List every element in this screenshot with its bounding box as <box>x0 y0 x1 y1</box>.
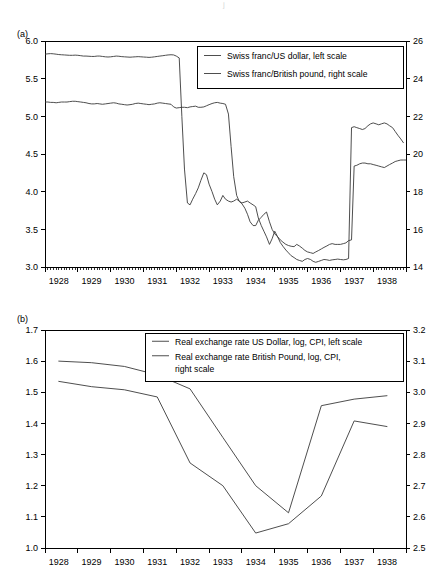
x-axis-tick-label: 1932 <box>180 276 200 286</box>
x-axis-tick-label: 1934 <box>246 276 266 286</box>
x-axis-tick-label: 1937 <box>344 557 364 567</box>
right-axis-tick-label: 14 <box>413 262 423 272</box>
x-axis-tick-label: 1933 <box>213 276 233 286</box>
left-axis-tick-label: 3.5 <box>25 225 38 235</box>
left-axis-tick-label: 1.7 <box>25 325 38 335</box>
x-axis-tick-label: 1931 <box>147 276 167 286</box>
left-axis-tick-label: 3.0 <box>25 262 38 272</box>
figure-container: j (a) 3.03.54.04.55.05.56.01416182022242… <box>0 0 448 585</box>
left-axis-tick-label: 1.2 <box>25 481 38 491</box>
left-axis-tick-label: 1.3 <box>25 450 38 460</box>
left-axis-tick-label: 1.5 <box>25 387 38 397</box>
x-axis-tick-label: 1936 <box>311 276 331 286</box>
x-axis-tick-label: 1934 <box>246 557 266 567</box>
legend-label-2: right scale <box>175 364 214 374</box>
x-axis-tick-label: 1930 <box>114 557 134 567</box>
left-axis-tick-label: 4.0 <box>25 187 38 197</box>
left-axis-tick-label: 5.5 <box>25 74 38 84</box>
left-axis-tick-label: 4.5 <box>25 149 38 159</box>
legend-label-1: Swiss franc/US dollar, left scale <box>227 51 347 61</box>
x-axis-tick-label: 1933 <box>213 557 233 567</box>
x-axis-tick-label: 1930 <box>114 276 134 286</box>
data-series-1 <box>45 101 406 253</box>
legend-label-2: Swiss franc/British pound, right scale <box>227 69 368 79</box>
left-axis-tick-label: 1.1 <box>25 512 38 522</box>
chart-panel-b: (b) 1.01.11.21.31.41.51.61.72.52.62.72.8… <box>0 300 448 585</box>
right-axis-tick-label: 2.7 <box>413 481 426 491</box>
left-axis-tick-label: 5.0 <box>25 112 38 122</box>
legend-label-1: Real exchange rate US Dollar, log, CPI, … <box>175 337 362 347</box>
right-axis-tick-label: 2.9 <box>413 419 426 429</box>
x-axis-tick-label: 1938 <box>377 557 397 567</box>
x-axis-tick-label: 1935 <box>278 276 298 286</box>
right-axis-tick-label: 2.5 <box>413 543 426 553</box>
x-axis-tick-label: 1935 <box>278 557 298 567</box>
right-axis-tick-label: 24 <box>413 74 423 84</box>
right-axis-tick-label: 3.0 <box>413 387 426 397</box>
x-axis-tick-label: 1931 <box>147 557 167 567</box>
x-axis-tick-label: 1928 <box>49 557 69 567</box>
panel-b-label: (b) <box>17 315 28 324</box>
data-series-2 <box>59 381 387 533</box>
right-axis-tick-label: 3.2 <box>413 325 426 335</box>
chart-b-svg: 1.01.11.21.31.41.51.61.72.52.62.72.82.93… <box>0 300 448 585</box>
left-axis-tick-label: 1.0 <box>25 543 38 553</box>
right-axis-tick-label: 2.6 <box>413 512 426 522</box>
right-axis-tick-label: 16 <box>413 225 423 235</box>
chart-panel-a: (a) 3.03.54.04.55.05.56.0141618202224261… <box>0 0 448 300</box>
left-axis-tick-label: 1.4 <box>25 419 38 429</box>
right-axis-tick-label: 3.1 <box>413 356 426 366</box>
panel-a-label: (a) <box>17 30 28 39</box>
x-axis-tick-label: 1932 <box>180 557 200 567</box>
x-axis-tick-label: 1928 <box>49 276 69 286</box>
right-axis-tick-label: 26 <box>413 36 423 46</box>
left-axis-tick-label: 1.6 <box>25 356 38 366</box>
x-axis-tick-label: 1937 <box>344 276 364 286</box>
data-series-1 <box>59 361 387 513</box>
legend-label-2: Real exchange rate British Pound, log, C… <box>175 352 341 362</box>
x-axis-tick-label: 1936 <box>311 557 331 567</box>
x-axis-tick-label: 1938 <box>377 276 397 286</box>
x-axis-tick-label: 1929 <box>82 557 102 567</box>
right-axis-tick-label: 2.8 <box>413 450 426 460</box>
chart-a-svg: 3.03.54.04.55.05.56.01416182022242619281… <box>0 0 448 300</box>
right-axis-tick-label: 18 <box>413 187 423 197</box>
right-axis-tick-label: 20 <box>413 149 423 159</box>
x-axis-tick-label: 1929 <box>82 276 102 286</box>
right-axis-tick-label: 22 <box>413 112 423 122</box>
